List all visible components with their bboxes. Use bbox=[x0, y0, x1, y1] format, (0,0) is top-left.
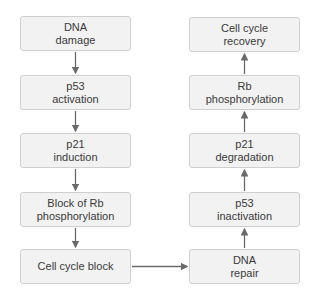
node-p21-induction: p21 induction bbox=[20, 133, 131, 168]
node-cell-cycle-recovery: Cell cycle recovery bbox=[189, 17, 300, 52]
node-p53-inactivation: p53 inactivation bbox=[189, 192, 300, 227]
node-p21-degradation: p21 degradation bbox=[189, 133, 300, 168]
node-dna-repair: DNA repair bbox=[189, 249, 300, 284]
node-dna-damage: DNA damage bbox=[20, 16, 131, 51]
node-cell-cycle-block: Cell cycle block bbox=[20, 249, 131, 284]
node-block-of-rb-phosphorylation: Block of Rb phosphorylation bbox=[20, 192, 131, 227]
node-rb-phosphorylation: Rb phosphorylation bbox=[189, 75, 300, 110]
node-p53-activation: p53 activation bbox=[20, 75, 131, 110]
